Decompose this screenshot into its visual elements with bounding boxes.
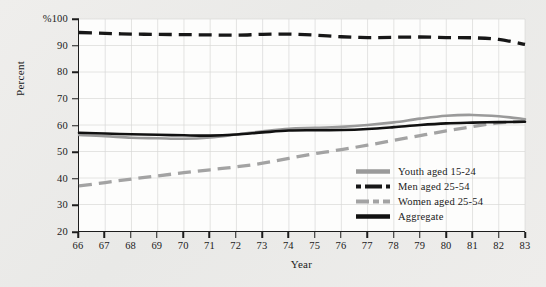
- x-tick-mark-70: [182, 232, 184, 238]
- x-tick-mark-82: [498, 232, 500, 238]
- y-tick-label-70: 70: [57, 94, 68, 104]
- x-tick-label-67: 67: [99, 240, 110, 251]
- x-tick-mark-83: [524, 232, 526, 238]
- x-tick-mark-72: [235, 232, 237, 238]
- x-tick-mark-79: [419, 232, 421, 238]
- chart-legend: Youth aged 15-24 Men aged 25-54 Women ag…: [355, 164, 525, 224]
- series-line-men-aged-25-54: [79, 33, 525, 45]
- legend-label-men: Men aged 25-54: [398, 181, 470, 193]
- x-tick-mark-69: [156, 232, 158, 238]
- x-tick-mark-67: [104, 232, 106, 238]
- y-tick-label-30: 30: [57, 200, 68, 210]
- legend-swatch-men-icon: [355, 179, 391, 194]
- legend-label-youth: Youth aged 15-24: [398, 166, 476, 178]
- x-tick-label-70: 70: [178, 240, 189, 251]
- x-tick-label-79: 79: [414, 240, 425, 251]
- y-tick-label-100: %100: [43, 14, 68, 24]
- legend-swatch-aggregate-icon: [355, 209, 391, 224]
- y-tick-label-90: 90: [57, 41, 68, 51]
- x-tick-label-68: 68: [125, 240, 136, 251]
- x-tick-label-77: 77: [362, 240, 373, 251]
- x-tick-label-82: 82: [493, 240, 504, 251]
- y-tick-label-40: 40: [57, 174, 68, 184]
- figure-container: Percent 2030405060708090%100 66676869707…: [0, 0, 546, 287]
- x-tick-label-80: 80: [441, 240, 452, 251]
- y-tick-label-50: 50: [57, 147, 68, 157]
- x-tick-mark-77: [366, 232, 368, 238]
- x-tick-mark-80: [445, 232, 447, 238]
- x-tick-mark-71: [209, 232, 211, 238]
- legend-item-women: Women aged 25-54: [355, 194, 525, 209]
- x-tick-label-66: 66: [73, 240, 84, 251]
- legend-swatch-women-icon: [355, 194, 391, 209]
- x-tick-label-76: 76: [335, 240, 346, 251]
- x-tick-label-69: 69: [151, 240, 162, 251]
- x-tick-label-75: 75: [309, 240, 320, 251]
- y-axis: 2030405060708090%100: [0, 0, 78, 250]
- y-tick-label-60: 60: [57, 121, 68, 131]
- x-tick-mark-68: [130, 232, 132, 238]
- x-axis: 666768697071727374757677787980818283: [0, 234, 546, 256]
- x-tick-mark-76: [340, 232, 342, 238]
- x-tick-label-71: 71: [204, 240, 215, 251]
- legend-item-aggregate: Aggregate: [355, 209, 525, 224]
- y-tick-label-80: 80: [57, 67, 68, 77]
- x-tick-label-74: 74: [283, 240, 294, 251]
- x-tick-mark-73: [261, 232, 263, 238]
- x-tick-mark-81: [472, 232, 474, 238]
- legend-label-aggregate: Aggregate: [398, 211, 444, 223]
- legend-swatch-youth-icon: [355, 164, 391, 179]
- x-tick-label-78: 78: [388, 240, 399, 251]
- legend-item-youth: Youth aged 15-24: [355, 164, 525, 179]
- x-tick-label-83: 83: [520, 240, 531, 251]
- x-tick-mark-75: [314, 232, 316, 238]
- x-tick-label-73: 73: [257, 240, 268, 251]
- x-tick-label-72: 72: [230, 240, 241, 251]
- legend-item-men: Men aged 25-54: [355, 179, 525, 194]
- x-axis-title: Year: [78, 258, 525, 270]
- x-tick-label-81: 81: [467, 240, 478, 251]
- x-tick-mark-78: [393, 232, 395, 238]
- x-tick-mark-66: [77, 232, 79, 238]
- legend-label-women: Women aged 25-54: [398, 196, 483, 208]
- x-tick-mark-74: [288, 232, 290, 238]
